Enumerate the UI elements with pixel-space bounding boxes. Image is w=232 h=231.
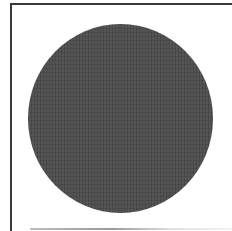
gray-circle <box>28 24 213 213</box>
bottom-edge-line <box>30 228 232 230</box>
